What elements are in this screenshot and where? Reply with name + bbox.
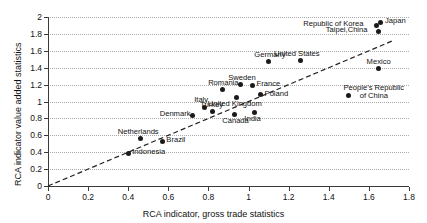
data-point[interactable] — [138, 136, 143, 141]
data-point-label: Mexico — [367, 58, 391, 67]
data-point-label: Japan — [385, 17, 406, 26]
data-point-label: Denmark — [160, 110, 191, 119]
data-point-label: Brazil — [166, 136, 185, 145]
scatter-chart: RCA indicator value added statistics RCA… — [0, 0, 427, 223]
data-point-label: Germany — [254, 51, 285, 60]
data-point-label: People's Republic of China — [341, 84, 407, 101]
data-point-label: Netherlands — [118, 128, 159, 137]
data-point-label: Turkey — [200, 101, 223, 110]
data-point[interactable] — [160, 139, 165, 144]
data-point-label: Poland — [265, 90, 289, 99]
data-point-label: Taipei,China — [326, 26, 368, 35]
data-point[interactable] — [126, 151, 131, 156]
data-point-label: Indonesia — [132, 148, 165, 157]
data-point[interactable] — [250, 83, 255, 88]
data-point-label: Romania — [208, 79, 238, 88]
data-point-label: Canada — [222, 117, 249, 126]
data-point-label: France — [257, 80, 281, 89]
plot-area: 00.20.40.60.811.21.41.61.800.20.40.60.81… — [0, 0, 427, 223]
